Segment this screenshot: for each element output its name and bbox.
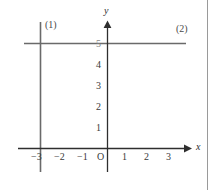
origin-label: O <box>97 152 104 162</box>
curve-label-2: (2) <box>176 24 188 34</box>
y-axis-label: y <box>104 6 108 16</box>
x-tick-label-2: 2 <box>144 152 149 162</box>
y-tick-label-1: 1 <box>96 123 101 133</box>
x-tick-label-minus1: −1 <box>77 152 88 162</box>
coordinate-plane-figure: y x (1) (2) −3 −2 −1 1 2 3 O 1 2 3 4 5 <box>0 0 221 190</box>
y-axis-arrowhead <box>104 21 112 29</box>
x-tick-label-3: 3 <box>166 152 171 162</box>
x-tick-label-minus3: −3 <box>31 152 42 162</box>
x-axis-label: x <box>196 142 200 152</box>
x-axis-arrowhead <box>184 145 192 153</box>
x-tick-label-minus2: −2 <box>54 152 65 162</box>
x-tick-label-1: 1 <box>122 152 127 162</box>
panel-right-border <box>207 0 208 190</box>
y-tick-label-5: 5 <box>96 39 101 49</box>
y-tick-label-2: 2 <box>96 102 101 112</box>
curve-label-1: (1) <box>45 20 57 30</box>
y-tick-label-3: 3 <box>96 81 101 91</box>
y-tick-label-4: 4 <box>96 60 101 70</box>
